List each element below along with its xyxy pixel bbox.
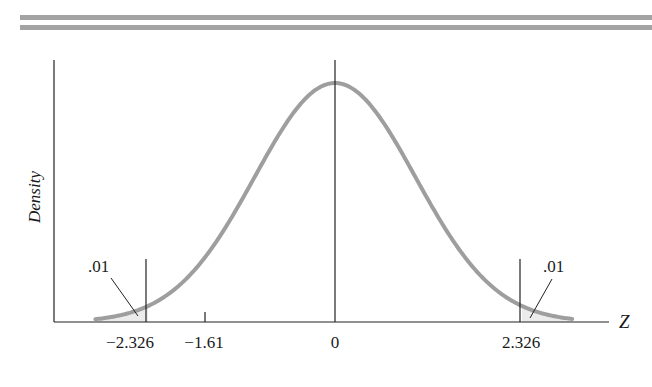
tick-label-neg2326: −2.326 xyxy=(106,333,154,352)
left-tail-area-label: .01 xyxy=(88,257,109,276)
y-axis-label: Density xyxy=(25,171,44,224)
right-tail-area-label: .01 xyxy=(543,257,564,276)
density-curve xyxy=(95,83,572,319)
tick-label-0: 0 xyxy=(331,333,340,352)
x-axis-label: Z xyxy=(619,311,630,332)
normal-density-chart: Density Z .01 .01 −2.326 −1.61 0 2.326 xyxy=(0,0,652,387)
tick-label-neg161: −1.61 xyxy=(184,333,223,352)
left-tail-pointer xyxy=(111,278,138,316)
tick-label-2326: 2.326 xyxy=(502,333,540,352)
